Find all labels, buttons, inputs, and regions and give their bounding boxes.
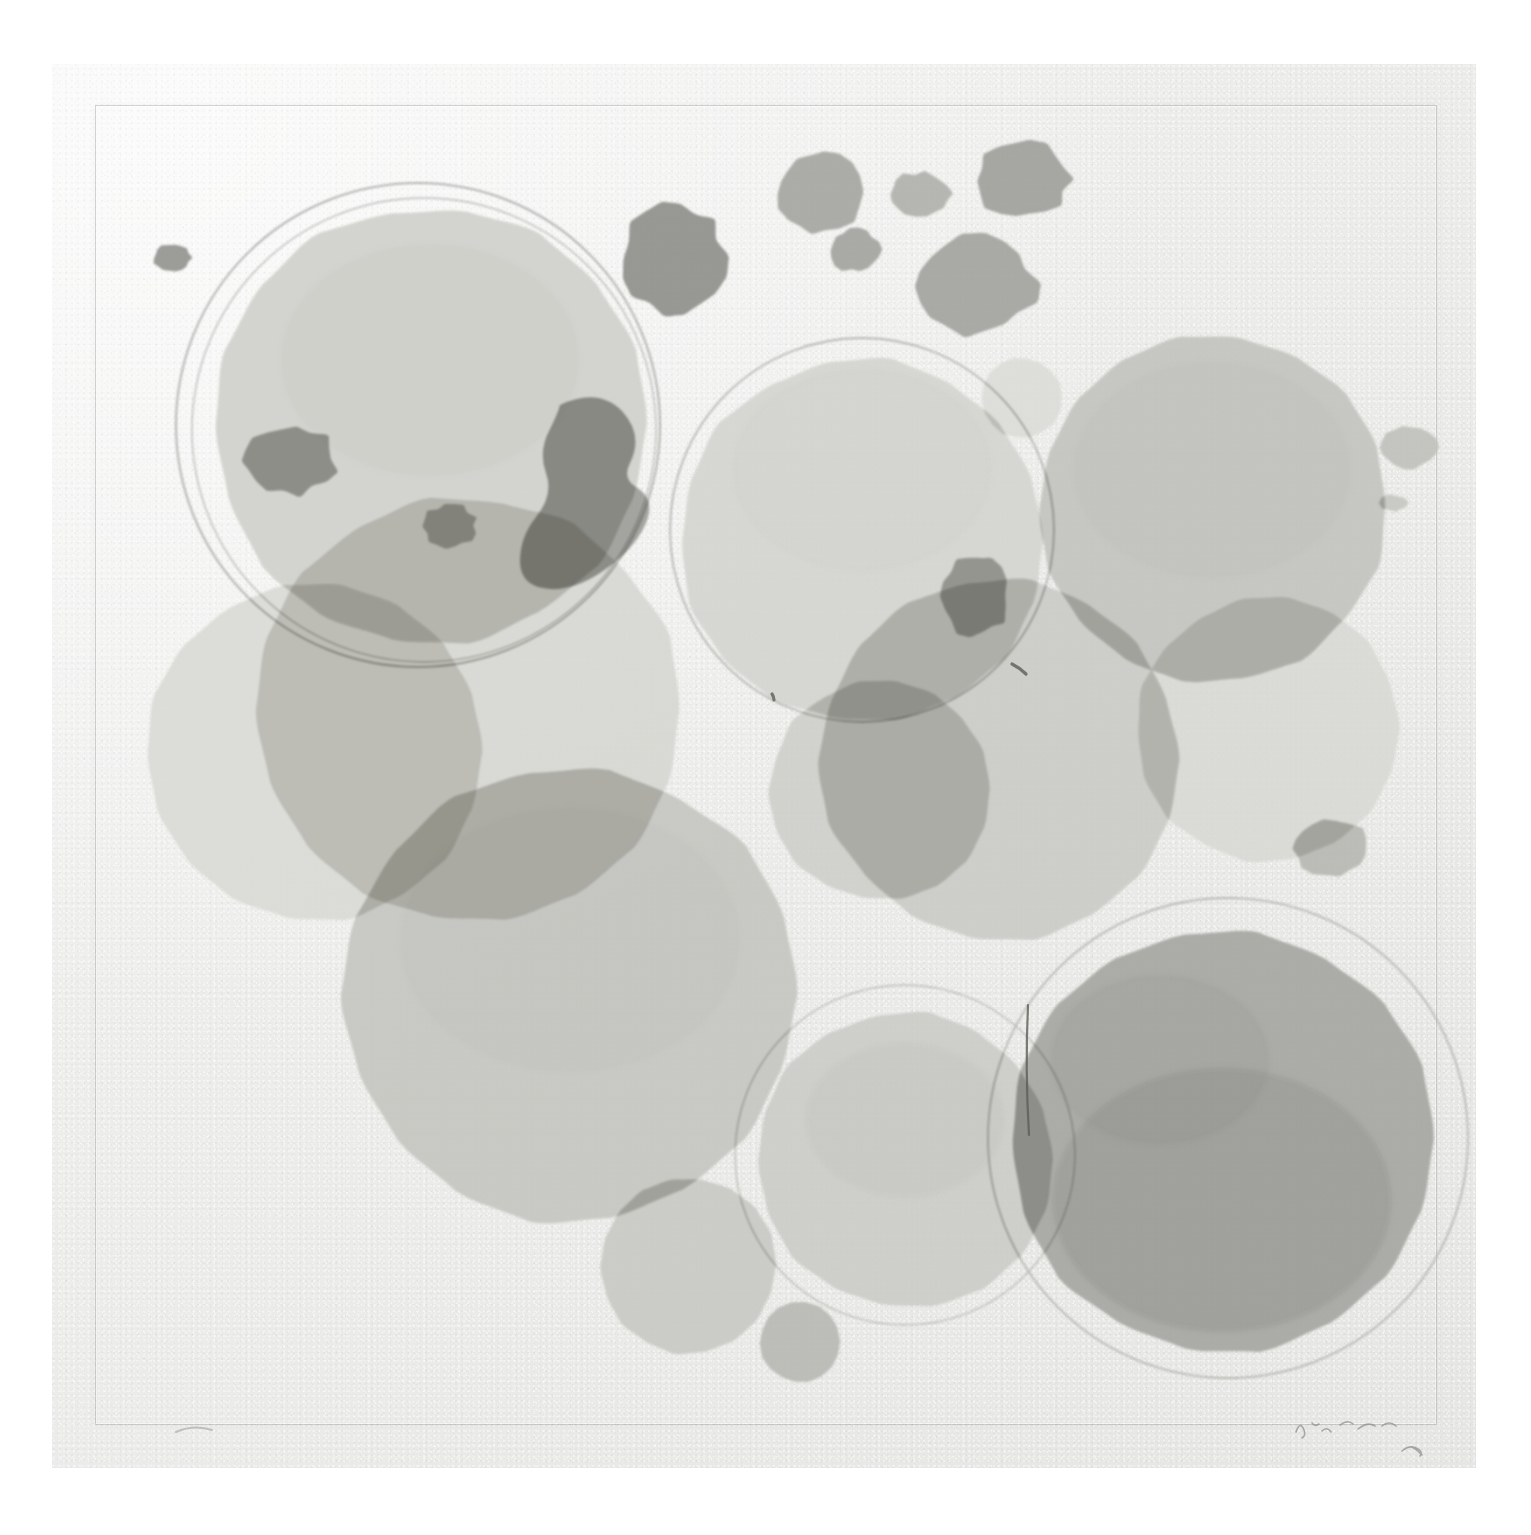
pigment-pool-3 — [400, 807, 740, 1072]
wash-circle-mid-center — [768, 681, 989, 899]
wash-circle-bottom-small — [600, 1179, 776, 1354]
wash-circle-upper-mid-small — [982, 358, 1062, 438]
artwork-canvas — [0, 0, 1531, 1535]
blot-top-mid-2 — [831, 228, 882, 272]
blot-top-left-dot — [154, 245, 193, 272]
wash-circle-bottom-tiny — [760, 1302, 840, 1382]
blot-right-edge-1 — [1380, 426, 1439, 470]
blot-top-mid-1 — [778, 151, 864, 233]
blot-top-dark-large — [623, 202, 729, 317]
pencil-edition-mark-icon — [176, 1427, 212, 1432]
pigment-pool-5 — [1050, 974, 1270, 1146]
pigment-pool-0 — [280, 243, 580, 477]
circle-composition — [0, 0, 1531, 1535]
pigment-pool-1 — [732, 369, 992, 572]
blot-top-mid-3 — [891, 171, 953, 217]
pigment-pool-6 — [805, 1042, 1005, 1198]
pigment-pool-2 — [1072, 361, 1352, 579]
composition-svg — [0, 0, 1531, 1535]
pencil-signature-icon — [1296, 1422, 1422, 1456]
shape-layer — [148, 140, 1468, 1382]
blot-top-right-2 — [915, 233, 1041, 337]
signature-layer — [176, 1422, 1422, 1456]
blot-top-right-1 — [978, 140, 1074, 216]
